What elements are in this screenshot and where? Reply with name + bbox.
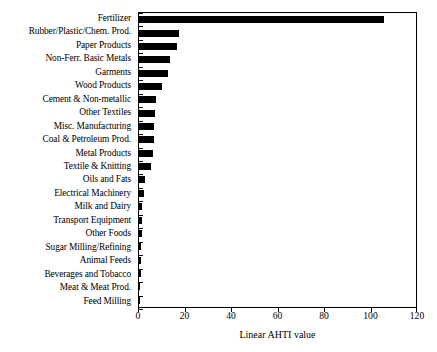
y-axis-tick [139,121,143,122]
bar-row [139,200,416,213]
y-axis-tick [139,13,143,14]
category-label: Garments [0,66,134,79]
y-axis-tick [139,201,143,202]
category-axis-labels: FertilizerRubber/Plastic/Chem. Prod.Pape… [0,12,134,308]
y-axis-tick [139,40,143,41]
y-axis-tick [139,107,143,108]
category-label: Sugar Milling/Refining [0,241,134,254]
bar-row [139,26,416,39]
category-label: Feed Milling [0,295,134,308]
x-axis-tick-label: 0 [136,311,141,321]
x-axis-tick-label: 80 [319,311,329,321]
bar-row [139,173,416,186]
category-label: Oils and Fats [0,173,134,186]
bar [139,16,384,23]
x-axis-tick-label: 40 [226,311,236,321]
y-axis-tick [139,255,143,256]
bar [139,96,156,103]
category-label: Beverages and Tobacco [0,268,134,281]
category-label: Electrical Machinery [0,187,134,200]
bar [139,150,153,157]
y-axis-tick [139,188,143,189]
bar [139,110,155,117]
bar-row [139,280,416,293]
y-axis-tick [139,134,143,135]
bar [139,43,177,50]
bar-row [139,147,416,160]
category-label: Cement & Non-metallic [0,93,134,106]
category-label: Other Textiles [0,106,134,119]
y-axis-tick [139,148,143,149]
bar-row [139,160,416,173]
category-label: Rubber/Plastic/Chem. Prod. [0,25,134,38]
bar-row [139,120,416,133]
category-label: Animal Feeds [0,254,134,267]
y-axis-tick [139,67,143,68]
bar-row [139,253,416,266]
category-label: Meat & Meat Prod. [0,281,134,294]
category-label: Coal & Petroleum Prod. [0,133,134,146]
x-axis-tick-label: 100 [363,311,377,321]
y-axis-tick [139,174,143,175]
bar [139,123,154,130]
bar [139,56,170,63]
bar-row [139,40,416,53]
category-label: Transport Equipment [0,214,134,227]
bar [139,257,141,264]
y-axis-tick [139,215,143,216]
x-axis-title: Linear AHTI value [138,330,417,340]
category-label: Paper Products [0,39,134,52]
y-axis-tick [139,94,143,95]
bar [139,190,144,197]
y-axis-tick [139,80,143,81]
bar-row [139,240,416,253]
category-label: Misc. Manufacturing [0,120,134,133]
bar [139,230,142,237]
bar-row [139,133,416,146]
category-label: Milk and Dairy [0,200,134,213]
bar [139,70,168,77]
bar-row [139,294,416,307]
linear-ahti-bar-chart: FertilizerRubber/Plastic/Chem. Prod.Pape… [0,0,437,352]
category-label: Non-Ferr. Basic Metals [0,52,134,65]
bar-row [139,267,416,280]
y-axis-tick [139,282,143,283]
bar-row [139,93,416,106]
bar [139,176,145,183]
bar [139,30,179,37]
bar [139,270,141,277]
bar-row [139,53,416,66]
plot-area [138,12,417,308]
y-axis-tick [139,26,143,27]
y-axis-tick [139,161,143,162]
bar-row [139,66,416,79]
bar [139,283,140,290]
bar-row [139,187,416,200]
y-axis-tick [139,228,143,229]
bars-container [139,13,416,307]
x-axis-tick-label: 20 [180,311,190,321]
category-label: Fertilizer [0,12,134,25]
y-axis-tick [139,296,143,297]
bar-row [139,227,416,240]
bar [139,83,162,90]
bar [139,163,151,170]
category-label: Textile & Knitting [0,160,134,173]
y-axis-tick [139,242,143,243]
y-axis-tick [139,53,143,54]
bar-row [139,213,416,226]
bar-row [139,80,416,93]
x-axis-tick-labels: 020406080100120 [138,311,417,325]
bar [139,217,142,224]
category-label: Metal Products [0,147,134,160]
category-label: Wood Products [0,79,134,92]
bar-row [139,13,416,26]
x-axis-tick-label: 60 [273,311,283,321]
bar-row [139,107,416,120]
bar [139,243,141,250]
y-axis-tick [139,269,143,270]
bar [139,203,142,210]
bar [139,136,154,143]
category-label: Other Foods [0,227,134,240]
x-axis-tick-label: 120 [410,311,424,321]
